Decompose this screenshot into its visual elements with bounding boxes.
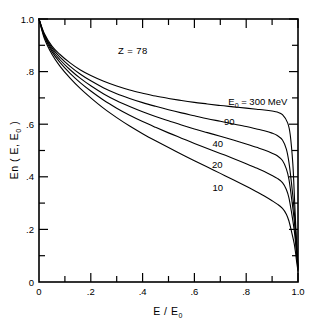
curve-10: [39, 19, 298, 271]
y-tick-label: .4: [26, 171, 34, 182]
annotation-z-value: Z = 78: [118, 45, 148, 56]
line-chart: 0.2.4.6.81.0 0.2.4.6.81.0 E0 = 300 MeV90…: [0, 0, 330, 323]
y-axis-title: En ( E, E0 ): [8, 121, 22, 179]
data-curves: [39, 19, 298, 271]
curve-20: [39, 19, 298, 269]
x-axis-tick-labels: 0.2.4.6.81.0: [36, 286, 304, 297]
y-tick-label: 0: [29, 277, 34, 288]
curve-label-20: 20: [212, 159, 223, 170]
x-axis-ticks-top: [65, 19, 298, 28]
x-tick-label: .4: [139, 286, 147, 297]
y-axis-ticks: [39, 19, 48, 256]
y-tick-label: 1.0: [21, 14, 34, 25]
x-axis-title: E / E0: [153, 305, 183, 319]
y-tick-label: .8: [26, 66, 34, 77]
curve-90: [39, 19, 298, 268]
curve-label-10: 10: [212, 182, 223, 193]
figure-container: 0.2.4.6.81.0 0.2.4.6.81.0 E0 = 300 MeV90…: [0, 0, 330, 323]
curve-label-e0-300-mev: E0 = 300 MeV: [228, 96, 288, 109]
curve-label-90: 90: [224, 116, 235, 127]
x-tick-label: .2: [87, 286, 95, 297]
x-axis-ticks: [65, 273, 298, 282]
x-tick-label: .8: [242, 286, 250, 297]
x-tick-label: 0: [36, 286, 41, 297]
plot-frame: [39, 19, 298, 282]
curve-40: [39, 19, 298, 269]
x-tick-label: 1.0: [291, 286, 304, 297]
curve-e0-300-mev: [39, 19, 298, 266]
y-tick-label: .2: [26, 224, 34, 235]
y-tick-label: .6: [26, 119, 34, 130]
y-axis-tick-labels: 0.2.4.6.81.0: [21, 14, 34, 288]
x-tick-label: .6: [190, 286, 198, 297]
curve-label-40: 40: [212, 138, 223, 149]
